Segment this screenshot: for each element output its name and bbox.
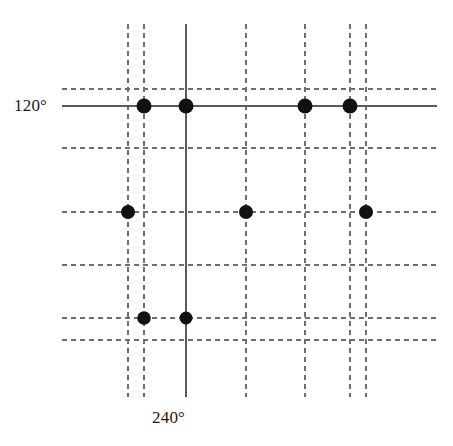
grid-and-points-svg <box>0 0 453 446</box>
data-point <box>239 205 253 219</box>
data-point <box>298 99 313 114</box>
data-point <box>359 205 373 219</box>
data-point <box>179 99 194 114</box>
vertical-axis-label: 240° <box>152 408 185 428</box>
scatter-plot-area <box>0 0 453 446</box>
data-point <box>137 99 152 114</box>
figure-root: 120° 240° <box>0 0 453 446</box>
data-point <box>343 99 358 114</box>
data-point <box>121 205 135 219</box>
data-point <box>137 311 151 325</box>
horizontal-axis-label: 120° <box>14 96 47 116</box>
data-point <box>180 312 193 325</box>
